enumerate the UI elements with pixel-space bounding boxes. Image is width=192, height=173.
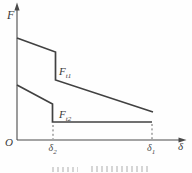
caption-fragment-right [91,166,151,172]
y-axis-label: F [6,8,15,22]
y-axis-arrow-icon [14,3,19,11]
curve-ft1-label-sub: t1 [66,72,71,80]
curve-ft2-label-sub: t2 [66,115,72,123]
tick-delta1: δ1 [147,142,155,156]
curve-ft2-label: Ft2 [58,108,72,123]
force-displacement-plot: F O δ Ft1 Ft2 δ2 δ1 [0,0,192,162]
curve-ft2 [17,85,152,122]
curve-ft1 [17,38,153,112]
caption-fragment-left [52,167,78,172]
curve-ft1-label: Ft1 [58,65,71,80]
figure-canvas: F O δ Ft1 Ft2 δ2 δ1 [0,0,192,173]
x-axis-label: δ [178,140,184,152]
tick-delta2-sub: 2 [53,148,57,156]
tick-delta1-sub: 1 [152,148,156,156]
tick-delta2: δ2 [49,142,58,156]
origin-label: O [5,136,13,148]
